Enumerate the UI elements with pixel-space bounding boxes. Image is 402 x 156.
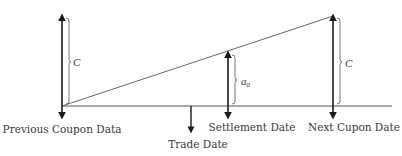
- right-c-brace: [337, 18, 342, 104]
- accrued-brace: [232, 55, 237, 104]
- previous-coupon-label: Previous Coupon Data: [3, 123, 122, 135]
- accrual-line: [62, 16, 333, 106]
- left-c-label: C: [73, 56, 81, 68]
- accrued-label: a0: [241, 75, 251, 89]
- accrued-interest-diagram: C a0 C Previous Coupon Data Trade Date S…: [0, 0, 402, 156]
- settlement-date-label: Settlement Date: [208, 121, 295, 133]
- right-c-label: C: [345, 57, 353, 69]
- next-coupon-label: Next Cupon Date: [308, 121, 400, 133]
- left-c-brace: [66, 18, 71, 104]
- trade-date-label: Trade Date: [168, 138, 228, 150]
